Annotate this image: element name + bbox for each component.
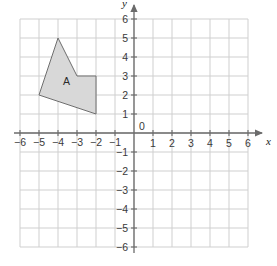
y-tick-label: −6 — [116, 241, 128, 253]
origin-label: 0 — [139, 120, 145, 132]
x-tick-label: −6 — [14, 136, 26, 148]
y-tick-label: 6 — [122, 13, 128, 25]
x-tick-label: −5 — [33, 136, 45, 148]
y-tick-label: 1 — [122, 108, 128, 120]
y-tick-label: −2 — [116, 165, 128, 177]
y-tick-label: 4 — [122, 51, 128, 63]
x-tick-label: 4 — [207, 137, 213, 149]
x-tick-label: 5 — [226, 137, 232, 149]
x-tick-label: 2 — [169, 137, 175, 149]
x-tick-label: −2 — [90, 136, 102, 148]
x-axis-name-label: x — [265, 135, 271, 147]
x-tick-label: 3 — [188, 137, 194, 149]
shape-label-A: A — [63, 75, 70, 87]
x-tick-label: 6 — [245, 137, 251, 149]
x-tick-label: −4 — [52, 136, 64, 148]
y-tick-label: 5 — [122, 32, 128, 44]
coordinate-grid-svg: −6−5−4−3−2−1123456 −6−5−4−3−2−1123456 0 … — [0, 0, 277, 266]
x-tick-label: 1 — [150, 137, 156, 149]
y-tick-label: −4 — [116, 203, 128, 215]
shape-labels: A — [63, 75, 70, 87]
y-axis-name-label: y — [121, 0, 127, 9]
y-tick-label: −1 — [116, 146, 128, 158]
coordinate-plane-figure: −6−5−4−3−2−1123456 −6−5−4−3−2−1123456 0 … — [0, 0, 277, 266]
y-tick-label: 3 — [122, 70, 128, 82]
x-tick-label: −3 — [71, 136, 83, 148]
y-tick-label: −3 — [116, 184, 128, 196]
y-tick-label: 2 — [122, 89, 128, 101]
y-tick-label: −5 — [116, 222, 128, 234]
